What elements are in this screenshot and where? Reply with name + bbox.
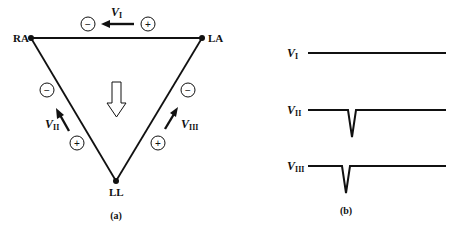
trace-iii-waveform	[308, 166, 446, 193]
ra-label: RA	[13, 32, 29, 44]
svg-text:+: +	[145, 19, 151, 30]
la-node-dot	[199, 35, 205, 41]
lead-iii-label: VIII	[181, 117, 198, 132]
svg-text:+: +	[155, 138, 161, 149]
ll-node-dot	[113, 178, 119, 184]
trace-ii-label: VII	[287, 103, 301, 118]
ll-label: LL	[109, 186, 124, 198]
lead-iii-arrow-icon	[165, 107, 178, 129]
lead-i-arrow-icon	[101, 20, 134, 28]
svg-text:−: −	[185, 85, 191, 96]
la-label: LA	[208, 32, 223, 44]
lead-i-label: VI	[111, 5, 122, 20]
lead-iii-edge	[116, 38, 202, 181]
heart-vector-arrow-icon	[107, 82, 126, 117]
ra-node-dot	[28, 35, 34, 41]
svg-text:−: −	[44, 85, 50, 96]
einthoven-triangle-figure: RA LA LL − + VI − + VII − + VIII	[0, 0, 458, 228]
panel-a: RA LA LL − + VI − + VII − + VIII	[13, 5, 223, 222]
svg-text:−: −	[85, 19, 91, 30]
trace-i-label: VI	[287, 46, 298, 61]
panel-b-caption: (b)	[340, 205, 352, 217]
svg-text:+: +	[74, 138, 80, 149]
panel-b: VI VII VIII (b)	[287, 46, 446, 217]
trace-iii-label: VIII	[287, 159, 304, 174]
lead-ii-label: VII	[45, 117, 59, 132]
trace-ii-waveform	[308, 110, 446, 137]
panel-a-caption: (a)	[110, 210, 122, 222]
lead-ii-edge	[31, 38, 116, 181]
